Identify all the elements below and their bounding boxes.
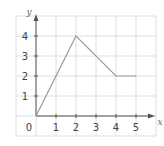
x-axis-label: x — [157, 117, 162, 127]
y-axis-arrow-icon — [34, 14, 39, 21]
y-tick-label: 3 — [22, 51, 28, 62]
tick-labels: 1234512340xy — [22, 7, 163, 133]
y-tick-label: 1 — [22, 91, 28, 102]
line-chart: 1234512340xy — [0, 0, 164, 146]
y-axis-label: y — [25, 7, 32, 17]
axes — [34, 14, 156, 119]
origin-label: 0 — [26, 122, 32, 133]
x-tick-label: 3 — [93, 122, 99, 133]
x-tick-label: 5 — [133, 122, 139, 133]
x-tick-label: 1 — [53, 122, 59, 133]
x-tick-label: 4 — [113, 122, 119, 133]
x-tick-label: 2 — [73, 122, 79, 133]
y-tick-label: 2 — [22, 71, 28, 82]
y-tick-label: 4 — [22, 31, 28, 42]
x-axis-arrow-icon — [148, 114, 155, 119]
